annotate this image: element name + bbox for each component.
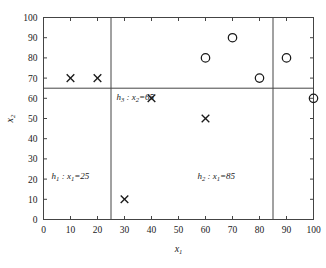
data-point-cross — [94, 74, 102, 82]
x-tick-label: 10 — [66, 225, 76, 235]
x-tick-label: 30 — [120, 225, 130, 235]
y-tick-label: 50 — [28, 114, 38, 124]
y-tick-label: 10 — [28, 195, 38, 205]
x-axis-title: x1 — [174, 243, 183, 255]
data-point-circle — [201, 54, 209, 62]
x-tick-label: 40 — [147, 225, 157, 235]
y-tick-label: 60 — [28, 94, 38, 104]
y-tick-label: 90 — [28, 33, 38, 43]
y-tick-label: 40 — [28, 134, 38, 144]
y-axis-title: x2 — [4, 114, 16, 123]
y-tick-label: 70 — [28, 74, 38, 84]
plot-canvas: 0102030405060708090100 01020304050607080… — [0, 0, 326, 268]
data-point-circle — [282, 54, 290, 62]
x-tick-label: 60 — [201, 225, 211, 235]
y-tick-label: 100 — [23, 13, 38, 23]
y-axis-tick-labels: 0102030405060708090100 — [23, 13, 38, 225]
x-tick-label: 20 — [93, 225, 103, 235]
x-tick-label: 0 — [41, 225, 46, 235]
x-tick-label: 100 — [306, 225, 321, 235]
x-tick-label: 70 — [228, 225, 238, 235]
y-tick-label: 30 — [28, 154, 38, 164]
decision-boundary-labels: h3 : x2=65h1 : x1=25h2 : x1=85 — [52, 92, 236, 182]
x-axis-tick-labels: 0102030405060708090100 — [41, 225, 321, 235]
data-point-cross — [67, 74, 75, 82]
y-tick-label: 80 — [28, 53, 38, 63]
data-point-circle — [228, 34, 236, 42]
annotation-h1: h1 : x1=25 — [52, 171, 90, 182]
y-tick-label: 20 — [28, 175, 38, 185]
y-tick-label: 0 — [33, 215, 38, 225]
data-point-cross — [202, 115, 210, 123]
x-tick-label: 80 — [255, 225, 265, 235]
data-markers — [67, 34, 318, 204]
scatter-plot-figure: 0102030405060708090100 01020304050607080… — [0, 0, 326, 268]
decision-boundary-lines — [44, 18, 314, 220]
annotation-h2: h2 : x1=85 — [197, 171, 235, 182]
data-point-circle — [255, 74, 263, 82]
data-point-cross — [121, 196, 129, 204]
x-tick-label: 50 — [174, 225, 184, 235]
x-tick-label: 90 — [282, 225, 292, 235]
annotation-h3: h3 : x2=65 — [116, 92, 154, 103]
